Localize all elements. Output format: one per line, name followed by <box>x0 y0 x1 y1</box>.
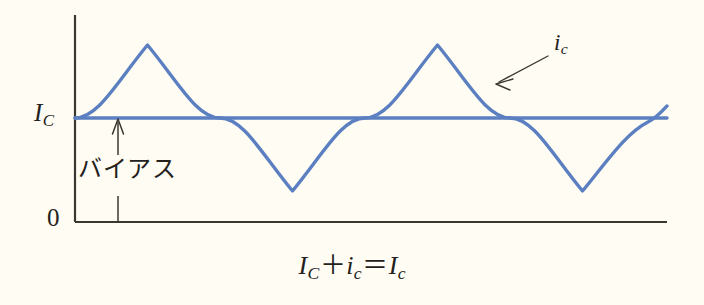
y-axis-level-sub: C <box>42 111 54 130</box>
ic-arrowhead-icon <box>496 79 513 90</box>
caption-plus: ＋ <box>319 251 346 280</box>
caption-term1-sub: C <box>307 263 319 283</box>
bias-label: バイアス <box>78 157 176 181</box>
caption-term2-base: i <box>346 251 353 280</box>
figure-sine-on-bias: IC 0 ic バイアス IC＋ic＝Ic <box>0 0 704 305</box>
y-axis-level-label: IC <box>34 100 54 129</box>
caption-equals: ＝ <box>362 251 389 280</box>
caption-term2-sub: c <box>354 263 362 283</box>
ic-leader-line <box>499 56 548 82</box>
caption-equation: IC＋ic＝Ic <box>0 253 704 283</box>
origin-label: 0 <box>47 205 60 230</box>
curve-label-ic: ic <box>554 31 568 57</box>
caption-term1-base: I <box>298 251 307 280</box>
caption-term3-sub: c <box>397 263 405 283</box>
curve-label-sub: c <box>560 40 567 57</box>
